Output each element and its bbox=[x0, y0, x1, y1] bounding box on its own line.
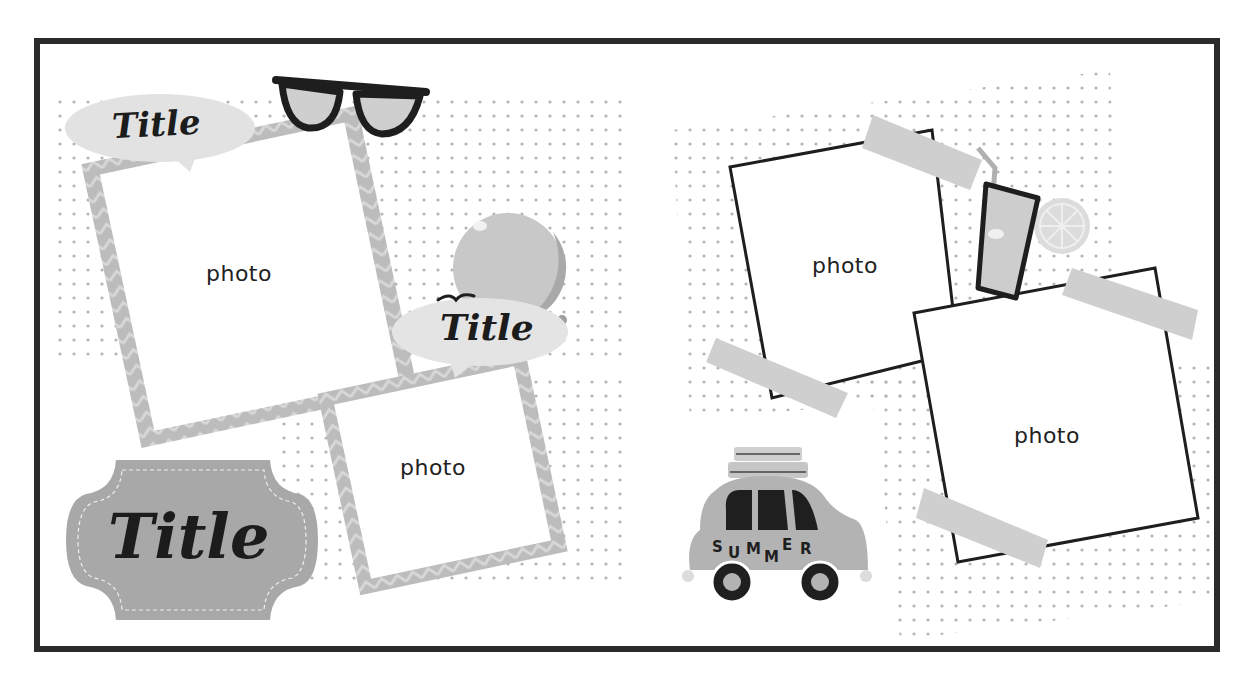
title-top[interactable]: Title bbox=[111, 102, 201, 147]
letter: R bbox=[800, 540, 812, 558]
photo-top-label: photo bbox=[812, 253, 878, 278]
title-mid[interactable]: Title bbox=[440, 306, 534, 348]
letter: M bbox=[746, 540, 761, 558]
album-page: Title Title Title photo photo photo phot… bbox=[0, 0, 1255, 684]
photo-small-label: photo bbox=[400, 455, 466, 480]
letter: E bbox=[782, 536, 792, 554]
photo-large-label: photo bbox=[206, 261, 272, 286]
letter: S bbox=[712, 538, 723, 556]
title-plate-text[interactable]: Title bbox=[108, 500, 269, 573]
letter: U bbox=[728, 544, 740, 562]
letter: M bbox=[764, 548, 779, 566]
photo-bottom-label: photo bbox=[1014, 423, 1080, 448]
